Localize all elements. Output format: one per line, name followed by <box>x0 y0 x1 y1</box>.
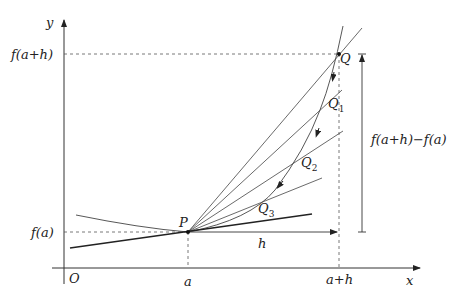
secant-PQ3 <box>188 178 322 232</box>
curve-arrow <box>317 128 319 134</box>
h-label: h <box>258 237 266 250</box>
point-label-P: P <box>179 216 188 229</box>
secant-PQ <box>188 28 362 232</box>
x-axis-label: x <box>406 274 413 287</box>
y-axis-label: y <box>46 16 53 29</box>
curve-arrow <box>333 72 334 78</box>
point-label-Q2: Q2 <box>301 156 317 173</box>
point-label-Q: Q <box>340 52 351 65</box>
curve-f <box>76 26 343 232</box>
point-label-Q3: Q3 <box>258 202 274 219</box>
origin-label: O <box>69 272 80 285</box>
tangent-at-P <box>70 214 312 248</box>
tick-label-a-plus-h: a+h <box>326 273 353 286</box>
point-P <box>186 230 190 234</box>
tick-label-a: a <box>184 275 192 288</box>
secant-diagram <box>0 0 468 308</box>
point-label-Q1: Q1 <box>328 97 344 114</box>
delta-f-label: f(a+h)−f(a) <box>371 133 447 146</box>
tick-label-f-a-plus-h: f(a+h) <box>11 48 53 61</box>
tick-label-f-a: f(a) <box>31 226 54 239</box>
